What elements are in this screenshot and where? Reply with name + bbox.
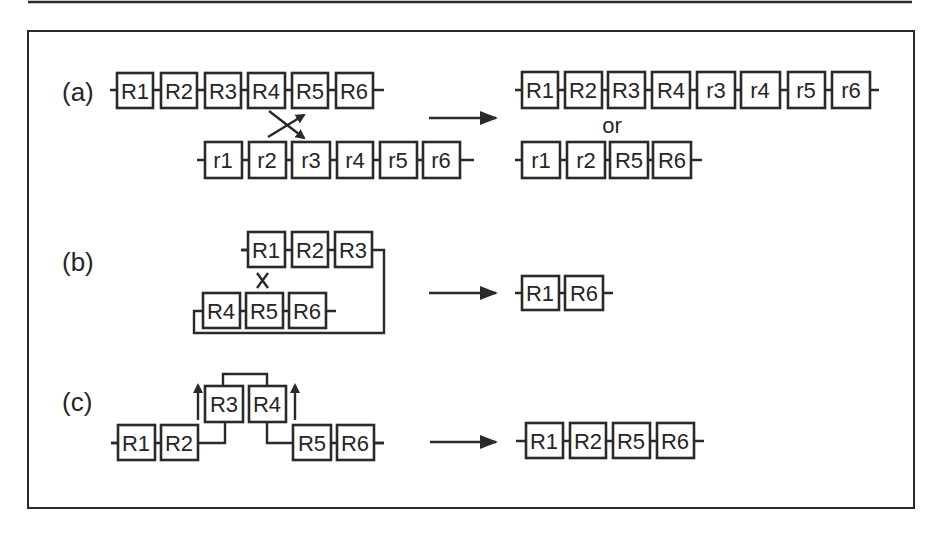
svg-text:R1: R1 xyxy=(121,79,149,104)
svg-text:r1: r1 xyxy=(531,148,551,173)
panel-c-result: R1 R2 R5 R6 xyxy=(516,423,704,458)
svg-text:R3: R3 xyxy=(612,78,640,103)
svg-text:r6: r6 xyxy=(431,148,451,173)
segment: R1 xyxy=(117,73,153,108)
segment: R3 xyxy=(205,386,243,422)
segment: R6 xyxy=(653,142,691,178)
svg-text:R6: R6 xyxy=(341,431,369,456)
svg-text:R3: R3 xyxy=(339,238,367,263)
segment: r5 xyxy=(788,72,825,108)
segment: R5 xyxy=(610,142,648,178)
segment: r1 xyxy=(205,142,242,178)
segment: R3 xyxy=(205,73,241,108)
segment: R1 xyxy=(526,423,563,458)
panel-b-result: R1 R6 xyxy=(515,276,613,310)
svg-text:R5: R5 xyxy=(615,148,643,173)
segment: r2 xyxy=(567,142,605,178)
segment: R3 xyxy=(335,232,372,267)
svg-text:R1: R1 xyxy=(526,78,554,103)
segment: R2 xyxy=(161,425,198,460)
panel-c: (c) R1 R2 R3 R4 R5 R6 R1 R2 R5 R6 xyxy=(62,374,704,460)
crossover-x-icon xyxy=(257,273,268,288)
svg-text:R4: R4 xyxy=(207,299,235,324)
segment: r2 xyxy=(249,142,286,178)
svg-text:R3: R3 xyxy=(209,79,237,104)
segment: R1 xyxy=(522,276,559,310)
svg-text:r4: r4 xyxy=(345,148,365,173)
svg-text:R2: R2 xyxy=(569,78,597,103)
segment: R5 xyxy=(292,73,328,108)
segment: R5 xyxy=(246,293,283,328)
svg-text:r5: r5 xyxy=(796,78,816,103)
svg-text:r4: r4 xyxy=(750,78,770,103)
svg-text:R2: R2 xyxy=(165,79,193,104)
segment: r5 xyxy=(380,142,417,178)
svg-text:R5: R5 xyxy=(296,79,324,104)
svg-text:R4: R4 xyxy=(657,78,685,103)
segment: R6 xyxy=(336,73,373,108)
svg-text:R5: R5 xyxy=(250,299,278,324)
segment: R2 xyxy=(161,73,197,108)
svg-text:r2: r2 xyxy=(576,148,596,173)
segment: R6 xyxy=(657,423,694,458)
segment: R5 xyxy=(613,423,650,458)
segment: R4 xyxy=(652,72,690,108)
panel-a-lower-strand: r1 r2 r3 r4 r5 r6 xyxy=(197,142,474,178)
panel-a: (a) R1 R2 R3 R4 R5 R6 r1 r2 r3 r4 r5 r6 xyxy=(62,72,879,178)
segment: R2 xyxy=(292,232,328,267)
panel-a-result-option-2: r1 r2 R5 R6 xyxy=(515,142,702,178)
svg-text:r3: r3 xyxy=(706,78,726,103)
svg-text:r2: r2 xyxy=(257,148,277,173)
svg-text:R1: R1 xyxy=(122,431,150,456)
panel-a-upper-strand: R1 R2 R3 R4 R5 R6 xyxy=(110,73,384,108)
panel-b-lower-strand: R4 R5 R6 xyxy=(203,293,336,328)
svg-text:R5: R5 xyxy=(298,431,326,456)
segment: r4 xyxy=(741,72,780,108)
svg-text:R2: R2 xyxy=(574,429,602,454)
svg-text:R3: R3 xyxy=(210,392,238,417)
svg-text:r5: r5 xyxy=(388,148,408,173)
svg-text:R4: R4 xyxy=(252,79,280,104)
panel-c-raised-strand: R3 R4 xyxy=(205,386,286,422)
svg-text:R6: R6 xyxy=(658,148,686,173)
svg-text:R1: R1 xyxy=(526,281,554,306)
segment: r3 xyxy=(697,72,735,108)
segment: R1 xyxy=(118,425,155,460)
svg-text:R2: R2 xyxy=(296,238,324,263)
svg-text:R6: R6 xyxy=(570,281,598,306)
svg-text:R6: R6 xyxy=(340,79,368,104)
segment: R6 xyxy=(337,425,374,460)
svg-text:R6: R6 xyxy=(661,429,689,454)
panel-c-right-strand: R5 R6 xyxy=(293,425,384,460)
panel-a-result-option-1: R1 R2 R3 R4 r3 r4 r5 r6 xyxy=(515,72,879,108)
segment: R2 xyxy=(570,423,606,458)
svg-text:R2: R2 xyxy=(165,431,193,456)
segment: R1 xyxy=(248,232,285,267)
panel-label-b: (b) xyxy=(62,247,94,277)
svg-text:R4: R4 xyxy=(253,392,281,417)
svg-text:R1: R1 xyxy=(530,429,558,454)
svg-text:R1: R1 xyxy=(252,238,280,263)
segment: r1 xyxy=(522,142,560,178)
segment: r6 xyxy=(423,142,460,178)
segment: r3 xyxy=(292,142,330,178)
panel-label-a: (a) xyxy=(62,77,94,107)
svg-text:r3: r3 xyxy=(301,148,321,173)
segment: r6 xyxy=(832,72,870,108)
panel-label-c: (c) xyxy=(62,387,92,417)
crossover-arrows-icon xyxy=(268,111,304,138)
svg-text:r6: r6 xyxy=(841,78,861,103)
segment: R4 xyxy=(203,293,240,328)
diagram-canvas: (a) R1 R2 R3 R4 R5 R6 r1 r2 r3 r4 r5 r6 xyxy=(0,0,939,534)
segment: R4 xyxy=(248,73,285,108)
segment: R3 xyxy=(608,72,645,108)
panel-c-left-strand: R1 R2 xyxy=(111,425,198,460)
svg-text:R5: R5 xyxy=(617,429,645,454)
segment: R5 xyxy=(293,425,331,460)
segment: R2 xyxy=(565,72,602,108)
segment: R4 xyxy=(249,386,286,422)
svg-text:r1: r1 xyxy=(213,148,233,173)
segment: R6 xyxy=(565,276,603,310)
panel-b-upper-strand: R1 R2 R3 xyxy=(241,232,372,267)
svg-text:R6: R6 xyxy=(293,299,321,324)
